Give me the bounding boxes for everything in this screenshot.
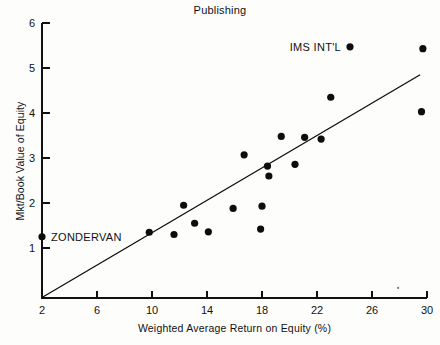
x-tick-label-2: 2	[39, 304, 45, 316]
data-point	[146, 229, 153, 236]
data-point	[170, 231, 177, 238]
data-point	[205, 228, 212, 235]
y-tick-label-5: 5	[29, 62, 35, 74]
data-point	[38, 233, 45, 240]
y-tick-label-6: 6	[29, 17, 35, 29]
data-point	[258, 203, 265, 210]
data-point	[301, 134, 308, 141]
data-point	[230, 205, 237, 212]
data-point	[264, 163, 271, 170]
tick-marks	[42, 23, 427, 298]
y-tick-label-4: 4	[29, 107, 35, 119]
data-point	[346, 43, 353, 50]
print-speck	[397, 287, 399, 289]
axis-spines	[42, 23, 427, 298]
x-tick-label-18: 18	[256, 304, 268, 316]
tick-labels: 12345626101418222630	[29, 17, 433, 316]
y-tick-label-3: 3	[29, 152, 35, 164]
data-point	[257, 226, 264, 233]
data-points	[38, 43, 426, 240]
chart-figure: Publishing Mkt/Book Value of Equity Weig…	[0, 0, 440, 345]
scan-speck-icon	[397, 287, 399, 289]
regression-line	[42, 75, 420, 298]
x-tick-label-26: 26	[366, 304, 378, 316]
x-tick-label-6: 6	[94, 304, 100, 316]
trend-line	[42, 75, 420, 298]
data-point	[291, 161, 298, 168]
data-point	[241, 151, 248, 158]
data-point	[318, 136, 325, 143]
x-tick-label-14: 14	[201, 304, 213, 316]
axes	[42, 23, 427, 298]
data-point	[327, 94, 334, 101]
scatter-plot-canvas: 12345626101418222630 ZONDERVANIMS INT'L	[0, 0, 440, 345]
x-tick-label-30: 30	[421, 304, 433, 316]
y-tick-label-2: 2	[29, 197, 35, 209]
data-point	[265, 172, 272, 179]
y-tick-label-1: 1	[29, 242, 35, 254]
data-point	[180, 202, 187, 209]
x-tick-label-10: 10	[146, 304, 158, 316]
point-annotations: ZONDERVANIMS INT'L	[51, 41, 341, 243]
annotation-ims-int-l: IMS INT'L	[290, 41, 341, 53]
data-point	[191, 220, 198, 227]
x-tick-label-22: 22	[311, 304, 323, 316]
data-point	[418, 108, 425, 115]
data-point	[419, 45, 426, 52]
annotation-zondervan: ZONDERVAN	[51, 231, 122, 243]
data-point	[278, 133, 285, 140]
